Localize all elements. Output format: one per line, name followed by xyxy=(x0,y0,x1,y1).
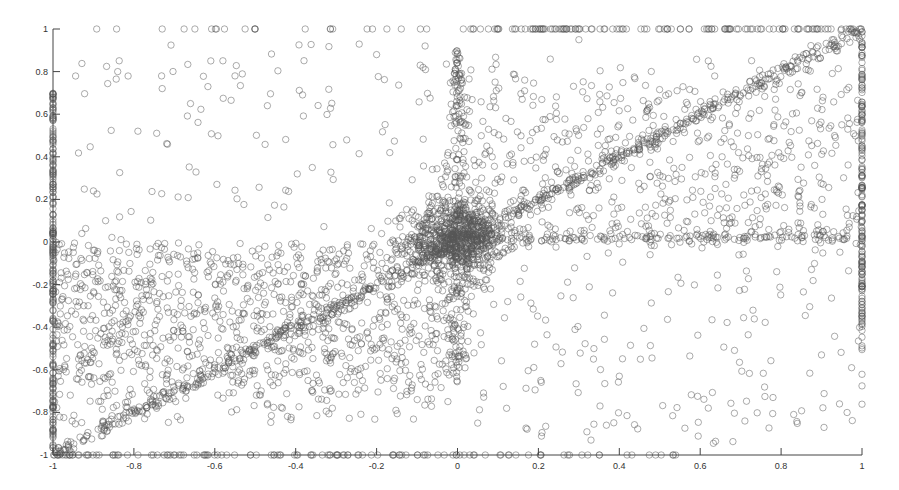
data-point xyxy=(545,222,551,228)
data-point xyxy=(744,146,750,152)
data-point xyxy=(529,129,535,135)
data-point xyxy=(97,378,103,384)
data-point xyxy=(745,276,751,282)
data-point xyxy=(624,228,630,234)
data-point xyxy=(197,337,203,343)
data-point xyxy=(783,119,789,125)
data-point xyxy=(461,149,467,155)
data-point xyxy=(326,86,332,92)
data-point xyxy=(493,61,499,67)
data-point xyxy=(778,292,784,298)
data-point xyxy=(809,118,815,124)
data-point xyxy=(605,250,611,256)
data-point xyxy=(724,319,730,325)
data-point xyxy=(705,405,711,411)
data-point xyxy=(158,73,164,79)
data-point xyxy=(694,130,700,136)
data-point xyxy=(548,179,554,185)
data-point xyxy=(283,136,289,142)
data-point xyxy=(363,252,369,258)
data-point xyxy=(719,115,725,121)
data-point xyxy=(748,58,754,64)
data-point xyxy=(230,364,236,370)
data-point xyxy=(715,285,721,291)
data-point xyxy=(448,184,454,190)
data-point xyxy=(707,152,713,158)
data-point xyxy=(566,131,572,137)
data-point xyxy=(820,250,826,256)
data-point xyxy=(789,154,795,160)
data-point xyxy=(418,376,424,382)
data-point xyxy=(96,361,102,367)
data-point xyxy=(656,97,662,103)
data-point xyxy=(768,358,774,364)
data-point xyxy=(808,42,814,48)
data-point xyxy=(747,199,753,205)
data-point xyxy=(368,357,374,363)
data-point xyxy=(253,132,259,138)
data-point xyxy=(377,341,383,347)
data-point xyxy=(725,195,731,201)
data-point xyxy=(455,128,461,134)
data-point xyxy=(501,315,507,321)
data-point xyxy=(85,303,91,309)
data-point xyxy=(214,255,220,261)
data-point xyxy=(615,205,621,211)
data-point xyxy=(770,410,776,416)
data-point xyxy=(384,321,390,327)
data-point xyxy=(324,111,330,117)
data-point xyxy=(580,168,586,174)
data-point xyxy=(501,136,507,142)
data-point xyxy=(256,246,262,252)
data-point xyxy=(382,121,388,127)
data-point xyxy=(375,389,381,395)
data-point xyxy=(260,290,266,296)
data-point xyxy=(451,138,457,144)
data-point xyxy=(276,267,282,273)
data-point xyxy=(234,407,240,413)
data-point xyxy=(773,202,779,208)
data-point xyxy=(109,273,115,279)
data-point xyxy=(453,145,459,151)
data-point xyxy=(859,401,865,407)
data-point xyxy=(671,165,677,171)
data-point xyxy=(692,174,698,180)
data-point xyxy=(289,369,295,375)
data-point xyxy=(275,262,281,268)
data-point xyxy=(521,265,527,271)
data-point xyxy=(370,323,376,329)
data-point xyxy=(845,268,851,274)
data-point xyxy=(175,345,181,351)
data-point xyxy=(748,188,754,194)
data-point xyxy=(745,219,751,225)
data-point xyxy=(828,295,834,301)
data-point xyxy=(67,392,73,398)
data-point xyxy=(94,26,100,32)
data-point xyxy=(375,73,381,79)
data-point xyxy=(142,267,148,273)
data-point xyxy=(679,164,685,170)
data-point xyxy=(179,289,185,295)
data-point xyxy=(582,341,588,347)
data-point xyxy=(78,255,84,261)
data-point xyxy=(514,129,520,135)
data-points xyxy=(50,26,865,458)
data-point xyxy=(757,216,763,222)
data-point xyxy=(766,226,772,232)
data-point xyxy=(505,298,511,304)
data-point xyxy=(184,113,190,119)
y-tick-label: 0 xyxy=(43,237,48,247)
data-point xyxy=(241,201,247,207)
data-point xyxy=(563,167,569,173)
data-point xyxy=(57,303,63,309)
data-point xyxy=(197,345,203,351)
data-point xyxy=(706,133,712,139)
data-point xyxy=(75,150,81,156)
data-point xyxy=(81,91,87,97)
data-point xyxy=(706,203,712,209)
data-point xyxy=(275,380,281,386)
data-point xyxy=(628,216,634,222)
data-point xyxy=(781,204,787,210)
data-point xyxy=(587,232,593,238)
data-point xyxy=(233,62,239,68)
